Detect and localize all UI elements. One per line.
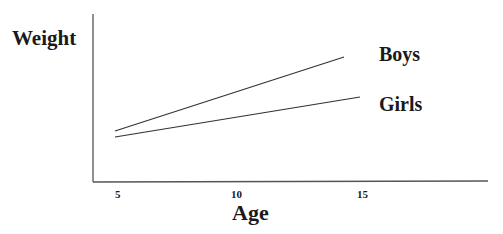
boys-line [115,57,344,131]
y-axis-label: Weight [12,26,76,50]
x-axis-label: Age [232,200,269,225]
chart: Weight Boys Girls 5 10 15 Age [0,0,503,234]
girls-line [115,97,360,137]
x-tick-10: 10 [231,188,243,200]
x-tick-15: 15 [357,188,369,200]
x-tick-5: 5 [115,188,121,200]
x-axis [93,181,488,182]
boys-label: Boys [379,43,420,66]
girls-label: Girls [379,93,423,115]
